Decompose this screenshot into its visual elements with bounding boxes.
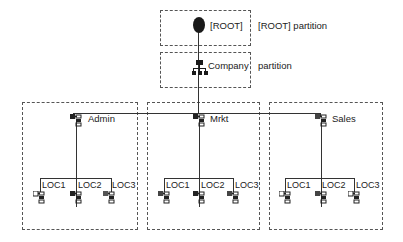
org-unit-icon[interactable]: [348, 191, 360, 205]
mrkt-loc3-label: LOC3: [235, 180, 259, 191]
admin-label: Admin: [88, 113, 115, 124]
root-label: [ROOT]: [210, 20, 243, 31]
org-unit-icon[interactable]: [315, 191, 327, 205]
company-partition-label: partition: [258, 60, 292, 71]
root-node-icon[interactable]: [192, 16, 206, 34]
org-unit-icon[interactable]: [103, 191, 115, 205]
org-unit-icon[interactable]: [227, 191, 239, 205]
admin-loc-horizontal: [40, 178, 112, 179]
org-unit-icon[interactable]: [193, 114, 205, 128]
sales-loc1-label: LOC1: [287, 180, 311, 191]
org-unit-icon[interactable]: [279, 191, 291, 205]
organization-icon[interactable]: [192, 60, 208, 76]
root-partition-label: [ROOT] partition: [258, 20, 327, 31]
sales-loc1-stem: [285, 178, 286, 192]
sales-loc-horizontal: [285, 178, 355, 179]
mrkt-loc3-stem: [233, 178, 234, 192]
company-label: Company: [208, 60, 249, 71]
mrkt-loc-horizontal: [164, 178, 234, 179]
org-unit-icon[interactable]: [193, 191, 205, 205]
org-unit-icon[interactable]: [70, 191, 82, 205]
mrkt-label: Mrkt: [210, 113, 228, 124]
sales-label: Sales: [332, 113, 356, 124]
admin-loc1-label: LOC1: [42, 180, 66, 191]
org-unit-icon[interactable]: [158, 191, 170, 205]
sales-loc3-stem: [354, 178, 355, 192]
mrkt-loc1-label: LOC1: [166, 180, 190, 191]
admin-loc3-label: LOC3: [112, 180, 136, 191]
org-unit-icon[interactable]: [70, 114, 82, 128]
org-unit-icon[interactable]: [315, 114, 327, 128]
org-unit-icon[interactable]: [33, 191, 45, 205]
admin-loc2-label: LOC2: [78, 180, 102, 191]
mrkt-loc1-stem: [164, 178, 165, 192]
sales-loc2-label: LOC2: [322, 180, 346, 191]
mrkt-loc2-label: LOC2: [201, 180, 225, 191]
admin-loc1-stem: [40, 178, 41, 192]
sales-loc3-label: LOC3: [356, 180, 380, 191]
